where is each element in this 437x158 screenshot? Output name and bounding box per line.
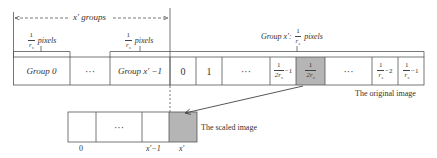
orig-cell-group0: Group 0 [13,57,70,85]
bracket-label-groupx-1: 1rs pixels [125,24,153,50]
scaled-index-x-1: x′−1 [146,145,161,153]
orig-cell-groupx-1: Group x′ −1 [110,57,170,85]
bracket-label-groupx: Group x′: 1rs pixels [261,26,323,46]
diagram-canvas: x′ groups 1rs pixels 1rs pixels Group x′… [0,0,437,158]
orig-cell-ellipsis-3: ··· [325,57,372,85]
x-groups-label: x′ groups [73,13,106,22]
orig-cell-ellipsis-1: ··· [70,57,110,85]
orig-cell-1: 1 [196,57,222,85]
orig-cell-half-minus-1: 12rs −1 [270,57,296,85]
original-image-caption: The original image [355,90,416,98]
scaled-index-x: x′ [179,145,184,153]
scaled-index-0: 0 [79,145,83,153]
orig-cell-ellipsis-2: ··· [222,57,270,85]
scaled-cell-ellipsis: ··· [96,112,142,142]
bracket-label-group0: 1rs pixels [28,24,56,50]
orig-cell-half-highlighted: 12rs [296,57,325,85]
scaled-image-caption: The scaled image [201,124,257,132]
orig-cell-full-minus-2: 1rs −2 [372,57,398,85]
orig-cell-full-minus-1: 1rs −1 [398,57,424,85]
mapping-arrow [185,86,303,113]
orig-cell-0: 0 [170,57,196,85]
